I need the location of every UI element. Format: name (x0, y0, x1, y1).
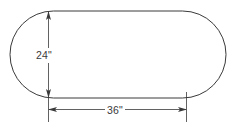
width-dimension-label: 36" (105, 103, 125, 118)
geometry-figure: 24" 36" (0, 0, 236, 132)
height-dimension-label: 24" (34, 48, 54, 63)
